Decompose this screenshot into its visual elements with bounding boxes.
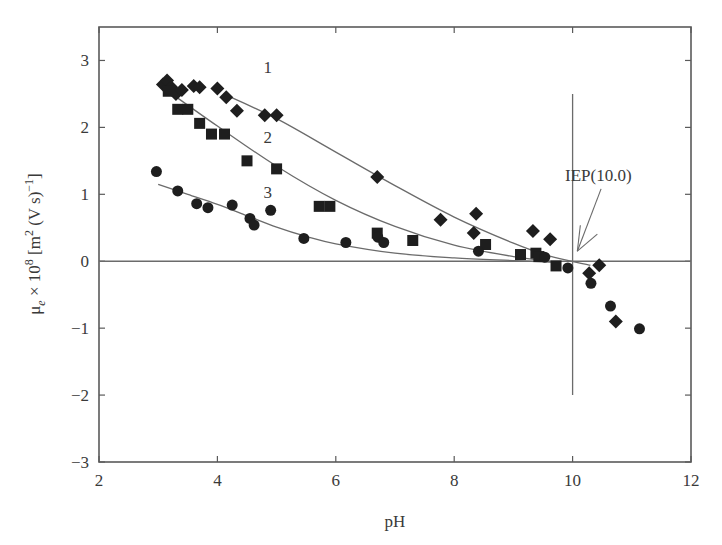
ylabel-unit: (V s)	[25, 192, 44, 230]
circle-marker	[562, 262, 573, 273]
circle-marker	[151, 166, 162, 177]
diamond-marker	[434, 213, 448, 227]
chart: 24681012−3−2−10123 123IEP(10.0) pH μe × …	[0, 0, 722, 545]
y-tick-label: 0	[81, 252, 90, 271]
x-tick-label: 8	[450, 471, 459, 490]
square-marker	[314, 201, 325, 212]
y-axis-title: μe × 108 [m2 (V s)−1]	[22, 173, 48, 315]
y-tick-label: 1	[81, 185, 90, 204]
diamond-marker	[219, 90, 233, 104]
circle-marker	[539, 252, 550, 263]
square-marker	[242, 155, 253, 166]
y-tick-label: −2	[71, 386, 89, 405]
iep-arrow-shaft	[577, 189, 601, 251]
reference-lines	[99, 94, 691, 395]
square-marker	[206, 129, 217, 140]
square-marker	[324, 201, 335, 212]
square-marker	[407, 235, 418, 246]
y-tick-label: −1	[71, 319, 89, 338]
diamond-marker	[592, 258, 606, 272]
fit-curve-series-2	[170, 93, 561, 263]
circle-marker	[298, 233, 309, 244]
ylabel-unit: [m	[25, 236, 44, 259]
diamond-marker	[230, 104, 244, 118]
series-label-2: 2	[263, 128, 272, 147]
square-marker	[163, 86, 174, 97]
circle-marker	[249, 220, 260, 231]
x-tick-label: 6	[332, 471, 341, 490]
tick-labels: 24681012−3−2−10123	[71, 51, 700, 490]
y-tick-label: 3	[81, 51, 90, 70]
circle-marker	[605, 301, 616, 312]
data-markers	[151, 74, 645, 335]
square-marker	[172, 104, 183, 115]
series-label-1: 1	[263, 58, 272, 77]
diamond-marker	[526, 224, 540, 238]
square-marker	[194, 118, 205, 129]
square-marker	[219, 129, 230, 140]
series-label-3: 3	[263, 183, 272, 202]
y-tick-label: −3	[71, 453, 89, 472]
ylabel-unit-exponent: −1	[22, 179, 36, 192]
x-tick-label: 10	[564, 471, 581, 490]
plot-frame	[99, 27, 691, 462]
x-axis-title: pH	[385, 512, 406, 531]
fit-curve-series-3	[158, 184, 561, 262]
ylabel-symbol: μ	[25, 306, 44, 315]
iep-label: IEP(10.0)	[565, 166, 632, 185]
diamond-marker	[609, 314, 623, 328]
axis-ticks	[99, 27, 691, 462]
circle-marker	[378, 237, 389, 248]
plot-border	[99, 27, 691, 462]
diamond-marker	[270, 108, 284, 122]
annotations: 123IEP(10.0)	[263, 58, 631, 252]
square-marker	[551, 260, 562, 271]
circle-marker	[473, 246, 484, 257]
diamond-marker	[370, 170, 384, 184]
diamond-marker	[469, 207, 483, 221]
circle-marker	[634, 323, 645, 334]
circle-marker	[191, 198, 202, 209]
y-tick-label: 2	[81, 118, 90, 137]
square-marker	[271, 163, 282, 174]
circle-marker	[585, 278, 596, 289]
diamond-marker	[543, 232, 557, 246]
square-marker	[515, 249, 526, 260]
circle-marker	[172, 185, 183, 196]
circle-marker	[202, 202, 213, 213]
x-tick-label: 4	[213, 471, 222, 490]
x-tick-label: 12	[683, 471, 700, 490]
circle-marker	[340, 237, 351, 248]
circle-marker	[265, 205, 276, 216]
diamond-marker	[210, 82, 224, 96]
ylabel-times: × 10	[25, 265, 44, 300]
circle-marker	[227, 200, 238, 211]
x-tick-label: 2	[95, 471, 104, 490]
square-marker	[182, 104, 193, 115]
ylabel-unit: ]	[25, 173, 44, 179]
